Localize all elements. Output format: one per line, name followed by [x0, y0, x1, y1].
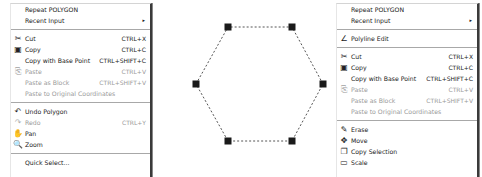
menu-item-move[interactable]: ✥Move — [337, 135, 477, 146]
copy-icon: ▣ — [13, 45, 23, 54]
copy-selection-icon: ❐ — [339, 147, 349, 156]
menu-item-label: Redo — [25, 117, 41, 128]
move-icon: ✥ — [339, 136, 349, 145]
menu-item-cut[interactable]: ✂CutCTRL+X — [337, 51, 477, 62]
menu-item-label: Cut — [351, 51, 362, 62]
menu-item-paste[interactable]: ⎘PasteCTRL+V — [337, 84, 477, 95]
menu-item-paste-as-block[interactable]: Paste as BlockCTRL+SHIFT+V — [11, 77, 150, 88]
menu-item-label: Repeat POLYGON — [25, 4, 78, 15]
menu-item-label: Paste — [351, 84, 368, 95]
menu-item-label: Paste as Block — [351, 95, 395, 106]
scissors-icon: ✂ — [339, 52, 349, 61]
menu-item-label: Repeat POLYGON — [351, 4, 404, 15]
menu-item-label: Copy — [25, 44, 41, 55]
grip-square[interactable] — [193, 81, 200, 88]
menu-separator — [337, 120, 477, 121]
scale-icon: ▭ — [339, 158, 349, 167]
menu-item-label: Quick Select... — [25, 157, 69, 168]
menu-item-shortcut: CTRL+X — [121, 33, 146, 44]
menu-item-repeat-polygon[interactable]: Repeat POLYGON — [337, 4, 477, 15]
undo-icon: ↶ — [13, 107, 23, 116]
menu-item-label: Pan — [25, 128, 36, 139]
menu-item-shortcut: CTRL+X — [448, 51, 473, 62]
menu-item-paste[interactable]: ⎘PasteCTRL+V — [11, 66, 150, 77]
menu-item-repeat-polygon[interactable]: Repeat POLYGON — [11, 4, 150, 15]
menu-item-label: Recent Input — [351, 15, 390, 26]
menu-item-shortcut: CTRL+SHIFT+C — [99, 55, 146, 66]
grip-square[interactable] — [225, 24, 232, 31]
menu-item-label: Recent Input — [25, 15, 64, 26]
menu-item-shortcut: CTRL+SHIFT+V — [426, 95, 473, 106]
context-menu-right: Repeat POLYGONRecent Input▸∠Polyline Edi… — [336, 3, 479, 177]
menu-item-recent-input[interactable]: Recent Input▸ — [337, 15, 477, 26]
paste-icon: ⎘ — [13, 67, 23, 76]
pan-hand-icon: ✋ — [13, 129, 23, 138]
submenu-arrow-icon: ▸ — [469, 15, 472, 26]
menu-item-label: Copy Selection — [351, 146, 397, 157]
menu-item-shortcut: CTRL+V — [122, 66, 147, 77]
menu-item-copy-with-base-point[interactable]: Copy with Base PointCTRL+SHIFT+C — [337, 73, 477, 84]
menu-item-paste-as-block[interactable]: Paste as BlockCTRL+SHIFT+V — [337, 95, 477, 106]
menu-item-label: Scale — [351, 157, 368, 168]
menu-item-quick-select[interactable]: Quick Select... — [11, 157, 150, 168]
copy-icon: ▣ — [339, 63, 349, 72]
menu-item-recent-input[interactable]: Recent Input▸ — [11, 15, 150, 26]
menu-item-copy-with-base-point[interactable]: Copy with Base PointCTRL+SHIFT+C — [11, 55, 150, 66]
menu-item-label: Copy — [351, 62, 367, 73]
polyline-edit-icon: ∠ — [339, 34, 349, 43]
menu-item-shortcut: CTRL+SHIFT+C — [426, 73, 473, 84]
menu-item-label: Erase — [351, 124, 368, 135]
grip-square[interactable] — [289, 24, 296, 31]
menu-item-erase[interactable]: ✎Erase — [337, 124, 477, 135]
menu-item-label: Cut — [25, 33, 36, 44]
menu-item-label: Copy with Base Point — [25, 55, 90, 66]
menu-item-zoom[interactable]: 🔍Zoom — [11, 139, 150, 150]
menu-separator — [11, 29, 150, 30]
menu-item-copy-selection[interactable]: ❐Copy Selection — [337, 146, 477, 157]
menu-item-label: Move — [351, 135, 368, 146]
grip-square[interactable] — [289, 138, 296, 145]
eraser-icon: ✎ — [339, 125, 349, 134]
menu-item-shortcut: CTRL+SHIFT+V — [99, 77, 146, 88]
menu-item-label: Undo Polygon — [25, 106, 67, 117]
menu-item-scale[interactable]: ▭Scale — [337, 157, 477, 168]
menu-item-polyline-edit[interactable]: ∠Polyline Edit — [337, 33, 477, 44]
menu-item-label: Copy with Base Point — [351, 73, 416, 84]
zoom-icon: 🔍 — [13, 140, 23, 149]
menu-separator — [337, 29, 477, 30]
menu-item-label: Polyline Edit — [351, 33, 389, 44]
menu-item-copy[interactable]: ▣CopyCTRL+C — [11, 44, 150, 55]
menu-item-pan[interactable]: ✋Pan — [11, 128, 150, 139]
menu-separator — [11, 153, 150, 154]
menu-item-label: Paste to Original Coordinates — [351, 106, 441, 117]
context-menu-left: Repeat POLYGONRecent Input▸✂CutCTRL+X▣Co… — [10, 3, 152, 177]
redo-icon: ↷ — [13, 118, 23, 127]
submenu-arrow-icon: ▸ — [142, 15, 145, 26]
paste-icon: ⎘ — [339, 85, 349, 94]
scissors-icon: ✂ — [13, 34, 23, 43]
menu-item-cut[interactable]: ✂CutCTRL+X — [11, 33, 150, 44]
menu-item-shortcut: CTRL+V — [449, 84, 474, 95]
menu-item-paste-to-original-coordinates[interactable]: Paste to Original Coordinates — [11, 88, 150, 99]
menu-separator — [11, 102, 150, 103]
menu-item-label: Paste — [25, 66, 42, 77]
menu-item-copy[interactable]: ▣CopyCTRL+C — [337, 62, 477, 73]
menu-item-shortcut: CTRL+C — [121, 44, 146, 55]
menu-item-shortcut: CTRL+C — [448, 62, 473, 73]
menu-item-label: Paste to Original Coordinates — [25, 88, 115, 99]
menu-item-paste-to-original-coordinates[interactable]: Paste to Original Coordinates — [337, 106, 477, 117]
menu-item-undo-polygon[interactable]: ↶Undo Polygon — [11, 106, 150, 117]
grip-points[interactable] — [193, 24, 327, 145]
menu-item-redo[interactable]: ↷RedoCTRL+Y — [11, 117, 150, 128]
menu-item-shortcut: CTRL+Y — [122, 117, 146, 128]
selected-hexagon-polygon[interactable] — [196, 27, 323, 141]
grip-square[interactable] — [225, 138, 232, 145]
menu-separator — [337, 47, 477, 48]
grip-square[interactable] — [320, 81, 327, 88]
menu-item-label: Paste as Block — [25, 77, 69, 88]
menu-item-label: Zoom — [25, 139, 43, 150]
